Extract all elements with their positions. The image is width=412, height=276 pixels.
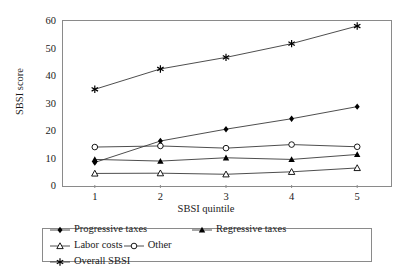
y-tick-label: 60	[32, 15, 56, 26]
legend-marker-open-triangle-icon	[49, 240, 71, 252]
y-tick-label: 0	[32, 180, 56, 191]
y-tick-label: 30	[32, 97, 56, 108]
series-labor-costs	[92, 165, 361, 177]
series-overall-sbsi	[92, 22, 361, 93]
y-tick-label: 50	[32, 42, 56, 53]
legend-item[interactable]: Regressive taxes	[191, 222, 319, 238]
x-tick-label: 3	[216, 191, 236, 202]
line-chart: SBSI score SBSI quintile Progressive tax…	[0, 0, 412, 276]
x-tick-label: 5	[347, 191, 367, 202]
legend-item[interactable]: Progressive taxes	[49, 222, 191, 238]
legend-item[interactable]: Other	[123, 238, 265, 254]
chart-legend: Progressive taxesRegressive taxesLabor c…	[42, 228, 372, 262]
legend-label: Other	[148, 240, 172, 251]
legend-marker-filled-diamond-icon	[49, 224, 71, 236]
legend-marker-asterisk-icon	[49, 256, 71, 268]
legend-label: Progressive taxes	[74, 224, 147, 235]
series-other	[92, 142, 360, 151]
legend-item[interactable]: Overall SBSI	[49, 254, 177, 270]
x-tick-label: 1	[85, 191, 105, 202]
legend-marker-open-circle-icon	[123, 240, 145, 252]
legend-label: Labor costs	[74, 240, 123, 251]
y-tick-label: 20	[32, 125, 56, 136]
x-tick-label: 4	[282, 191, 302, 202]
legend-label: Overall SBSI	[74, 256, 130, 267]
legend-marker-filled-triangle-icon	[191, 224, 213, 236]
x-tick-label: 2	[150, 191, 170, 202]
y-tick-label: 40	[32, 70, 56, 81]
y-tick-label: 10	[32, 152, 56, 163]
series-regressive-taxes	[92, 151, 361, 163]
legend-item[interactable]: Labor costs	[49, 238, 123, 254]
x-axis-title: SBSI quintile	[0, 203, 412, 214]
legend-label: Regressive taxes	[216, 224, 286, 235]
